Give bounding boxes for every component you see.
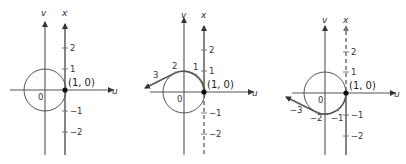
wrap-label-1: 1: [193, 62, 198, 72]
u-label: u: [252, 88, 258, 98]
tick-label-1: 1: [351, 67, 356, 77]
wrap-mark-1: [195, 74, 198, 77]
u-label: u: [112, 86, 118, 96]
x-label: x: [342, 15, 349, 25]
point-1-0: [201, 89, 206, 94]
panel-3: v x u 0 (1, 0) 2 1 −1 −2 −1 −2 −3: [286, 15, 400, 155]
point-label: (1, 0): [349, 80, 376, 91]
tick-label-neg1: −1: [209, 108, 222, 118]
wrap-mark-3: [156, 81, 159, 84]
point-label: (1, 0): [68, 77, 95, 88]
origin-label: 0: [177, 94, 182, 104]
origin-label: 0: [38, 92, 43, 102]
x-axis-arrow: [343, 25, 349, 31]
x-label: x: [200, 10, 207, 20]
wrap-mark-neg3: [297, 102, 300, 105]
v-label: v: [322, 15, 328, 25]
tick-label-neg2: −2: [70, 127, 83, 137]
wrap-label-neg3: −3: [290, 105, 303, 115]
wrapping-function-diagram: v x u 0 (1, 0) 2 1 −1 −2 v x u 0 (1, 0): [0, 0, 406, 164]
tick-label-2: 2: [351, 47, 356, 57]
wrap-label-neg1: −1: [331, 113, 344, 123]
wrap-label-neg2: −2: [310, 113, 323, 123]
tick-label-1: 1: [70, 64, 75, 74]
wrap-label-3: 3: [153, 70, 158, 80]
panel-1: v x u 0 (1, 0) 2 1 −1 −2: [10, 8, 118, 155]
tick-label-1: 1: [209, 66, 214, 76]
point-1-0: [62, 87, 67, 92]
tick-label-neg2: −2: [209, 129, 222, 139]
v-label: v: [41, 8, 47, 18]
tick-label-2: 2: [209, 45, 214, 55]
v-label: v: [181, 10, 187, 20]
wrap-mark-neg1: [337, 109, 340, 112]
tick-label-neg2: −2: [351, 131, 364, 141]
x-label: x: [61, 8, 68, 18]
point-1-0: [343, 90, 348, 95]
wrap-mark-2: [174, 72, 177, 75]
panel-2: v x u 0 (1, 0) 2 1 −1 −2 1 2 3: [145, 10, 258, 155]
u-label: u: [394, 89, 400, 99]
origin-label: 0: [318, 95, 323, 105]
tick-label-neg1: −1: [70, 106, 83, 116]
tick-label-2: 2: [70, 43, 75, 53]
point-label: (1, 0): [207, 79, 234, 90]
tick-label-neg1: −1: [351, 110, 364, 120]
wrap-label-2: 2: [172, 61, 177, 71]
